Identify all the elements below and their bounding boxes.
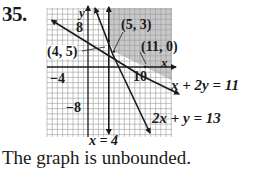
x-tick-10: 10 xyxy=(133,70,147,84)
y-axis-label: y xyxy=(79,6,85,19)
y-tick-8: 8 xyxy=(76,21,83,35)
y-tick-neg4: −4 xyxy=(50,72,65,86)
caption: The graph is unbounded. xyxy=(2,147,191,169)
equation-label-2x-plus-y: 2x + y = 13 xyxy=(152,111,221,126)
x-axis-label: x xyxy=(161,56,168,69)
vertex-label-5-3: (5, 3) xyxy=(121,18,151,32)
equation-label-x-eq-4: x = 4 xyxy=(89,134,118,148)
vertex-label-11-0: (11, 0) xyxy=(141,40,178,54)
equation-label-x-plus-2y: x + 2y = 11 xyxy=(171,78,239,93)
vertex-label-4-5: (4, 5) xyxy=(47,45,77,59)
y-tick-neg8: −8 xyxy=(66,101,81,115)
